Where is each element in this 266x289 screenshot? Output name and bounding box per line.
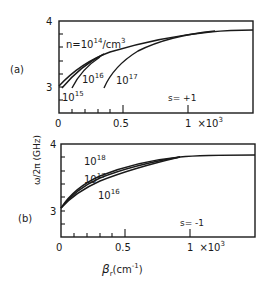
- label-n1e17: 1017: [84, 172, 106, 185]
- xtick-label-05: 0.5: [113, 118, 129, 129]
- label-n1e18: 1018: [84, 154, 106, 167]
- xtick-label-1: 1×103: [187, 240, 225, 253]
- panel-label-b: (b): [18, 213, 32, 224]
- xtick-label-0: 0: [55, 118, 61, 129]
- ytick-label-4: 4: [50, 139, 56, 150]
- ytick-label-3: 3: [46, 82, 52, 93]
- dispersion-figure: n=1014/cm3 1015 1016 1017 s= +1 4 3 0 0.…: [0, 0, 266, 289]
- s-annotation-b: s= -1: [180, 218, 204, 228]
- xtick-label-1: 1×103: [185, 116, 223, 129]
- label-n1e17: 1017: [116, 73, 138, 86]
- s-annotation-a: s= +1: [168, 93, 196, 103]
- xtick-label-0: 0: [56, 242, 62, 253]
- panel-label-a: (a): [10, 64, 24, 75]
- x-axis-label: βr(cm-1): [101, 262, 143, 278]
- curve-n1e17: [61, 157, 180, 208]
- ytick-label-3: 3: [50, 206, 56, 217]
- curve-n1e16: [61, 157, 180, 208]
- label-n1e16: 1016: [98, 188, 120, 201]
- y-axis-label: ω/2π (GHz): [32, 135, 42, 185]
- xtick-label-05: 0.5: [115, 242, 131, 253]
- label-n1e15: 1015: [62, 90, 84, 103]
- label-n1e16: 1016: [82, 72, 104, 85]
- panel-a: n=1014/cm3 1015 1016 1017 s= +1 4 3 0 0.…: [10, 16, 253, 129]
- ytick-label-4: 4: [46, 16, 52, 27]
- label-n1e14: n=1014/cm3: [66, 37, 125, 50]
- panel-b: 1018 1017 1016 s= -1 4 3 0 0.5 1×103 (b)…: [18, 139, 255, 278]
